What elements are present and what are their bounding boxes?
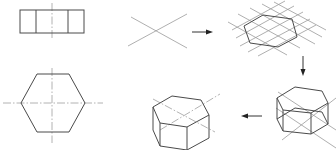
isometric-prism-diagram — [0, 0, 336, 150]
arrow-left-icon — [241, 114, 262, 119]
arrow-right-icon — [192, 30, 213, 35]
front-view — [20, 3, 84, 40]
step-2-hexagon-grid — [228, 1, 326, 56]
step-4-final-prism — [153, 94, 220, 150]
step-1-axes — [128, 14, 187, 48]
step-3-prism-construction — [276, 87, 336, 148]
top-view — [3, 68, 103, 143]
arrow-down-icon — [301, 56, 306, 76]
